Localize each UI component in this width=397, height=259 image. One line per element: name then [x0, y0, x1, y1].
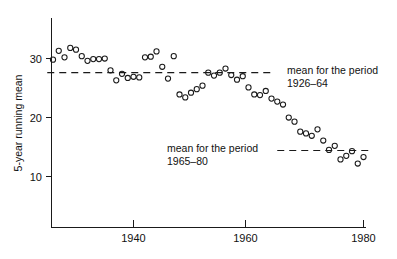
y-tick-label-20: 20: [30, 112, 42, 124]
data-point: [298, 129, 303, 134]
data-point: [114, 78, 119, 83]
x-tick-label-1980: 1980: [351, 232, 375, 244]
data-point: [56, 48, 61, 53]
x-axis-ticks: [134, 220, 364, 228]
data-point: [361, 154, 366, 159]
y-tick-label-10: 10: [30, 171, 42, 183]
data-point: [240, 74, 245, 79]
data-point: [332, 143, 337, 148]
data-point: [102, 56, 107, 61]
data-point: [292, 119, 297, 124]
data-point: [96, 56, 101, 61]
annotation-1-line2: 1926–64: [287, 77, 328, 89]
y-tick-label-30: 30: [30, 53, 42, 65]
data-point: [315, 127, 320, 132]
data-point: [252, 92, 257, 97]
data-point: [91, 56, 96, 61]
data-point: [355, 161, 360, 166]
data-point: [246, 85, 251, 90]
data-point: [349, 149, 354, 154]
x-axis-tick-labels: 1940 1960 1980: [121, 232, 375, 244]
data-point: [200, 83, 205, 88]
data-point: [142, 55, 147, 60]
data-point: [68, 45, 73, 50]
annotation-mean-1926-64: mean for the period 1926–64: [287, 64, 378, 89]
annotation-mean-1965-80: mean for the period 1965–80: [167, 142, 258, 167]
data-point: [234, 77, 239, 82]
data-point: [79, 54, 84, 59]
data-point: [154, 49, 159, 54]
data-point: [137, 75, 142, 80]
annotation-2-line2: 1965–80: [167, 155, 208, 167]
data-point: [280, 102, 285, 107]
data-point: [303, 131, 308, 136]
data-point: [275, 99, 280, 104]
data-point: [194, 87, 199, 92]
data-point: [211, 73, 216, 78]
data-point: [257, 92, 262, 97]
data-point: [321, 138, 326, 143]
data-point: [286, 115, 291, 120]
data-point: [223, 66, 228, 71]
y-axis-ticks: [46, 59, 52, 177]
data-point: [326, 147, 331, 152]
scatter-plot-svg: 30 20 10 1940 1960 1980 5-year running m…: [0, 0, 397, 259]
data-point: [62, 55, 67, 60]
y-axis-title: 5-year running mean: [12, 74, 24, 171]
data-point: [131, 74, 136, 79]
data-point: [183, 95, 188, 100]
y-axis-tick-labels: 30 20 10: [30, 53, 42, 183]
data-point: [165, 76, 170, 81]
data-point: [148, 54, 153, 59]
data-point: [188, 90, 193, 95]
annotation-1-line1: mean for the period: [287, 64, 378, 76]
data-point: [177, 92, 182, 97]
data-point: [338, 157, 343, 162]
chart-container: 30 20 10 1940 1960 1980 5-year running m…: [0, 0, 397, 259]
data-point: [119, 71, 124, 76]
annotation-2-line1: mean for the period: [167, 142, 258, 154]
data-point: [73, 47, 78, 52]
data-point: [160, 64, 165, 69]
data-point: [263, 88, 268, 93]
x-tick-label-1940: 1940: [121, 232, 145, 244]
data-point: [125, 75, 130, 80]
data-point: [309, 133, 314, 138]
data-point: [269, 96, 274, 101]
x-tick-label-1960: 1960: [233, 232, 257, 244]
data-point: [344, 153, 349, 158]
data-point: [85, 58, 90, 63]
data-point: [171, 54, 176, 59]
